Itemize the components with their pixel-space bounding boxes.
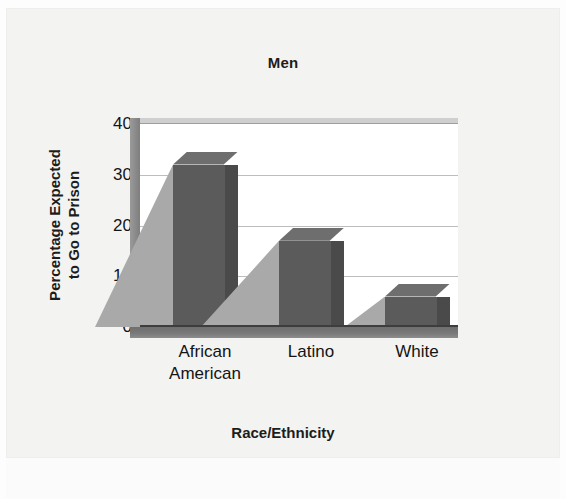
plot-area (140, 124, 458, 327)
y-axis-title-line-2: to Go to Prison (64, 149, 83, 301)
x-axis-tick-label-line: American (169, 363, 241, 385)
y-axis-tick-label: 40 (92, 114, 132, 134)
plot-top-gridline (140, 123, 458, 124)
x-axis-tick-label: Latino (288, 341, 334, 363)
x-axis-tick-labels: AfricanAmericanLatinoWhite (140, 341, 458, 401)
plot-box-floor (130, 327, 458, 338)
scanned-paper-lower-margin (6, 458, 560, 498)
bar-side-face (437, 297, 450, 327)
bar-top-face (385, 284, 450, 297)
chart-title: Men (0, 54, 566, 71)
bar-top-face (279, 228, 344, 241)
x-axis-title: Race/Ethnicity (0, 424, 566, 441)
bar-latino[interactable] (279, 228, 344, 327)
x-axis-tick-label-line: African (169, 341, 241, 363)
y-axis-tick-label: 20 (92, 216, 132, 236)
bar-front-face (385, 297, 437, 327)
x-axis-tick-label-line: Latino (288, 341, 334, 363)
bar-top-face (173, 152, 238, 165)
y-axis-tick-label: 30 (92, 165, 132, 185)
y-axis-title-line-1: Percentage Expected (46, 149, 63, 301)
chart-page: Men Percentage Expected to Go to Prison … (0, 0, 566, 499)
bar-front-face (279, 241, 331, 327)
bar-front-face (173, 165, 225, 327)
bar-white[interactable] (385, 284, 450, 327)
y-axis-title-text: Percentage Expected to Go to Prison (45, 149, 83, 301)
x-axis-tick-label-line: White (395, 341, 438, 363)
bar-side-face (331, 241, 344, 327)
x-axis-tick-label: AfricanAmerican (169, 341, 241, 385)
x-axis-tick-label: White (395, 341, 438, 363)
bar-shadow (345, 297, 385, 327)
y-axis-title: Percentage Expected to Go to Prison (36, 110, 92, 340)
